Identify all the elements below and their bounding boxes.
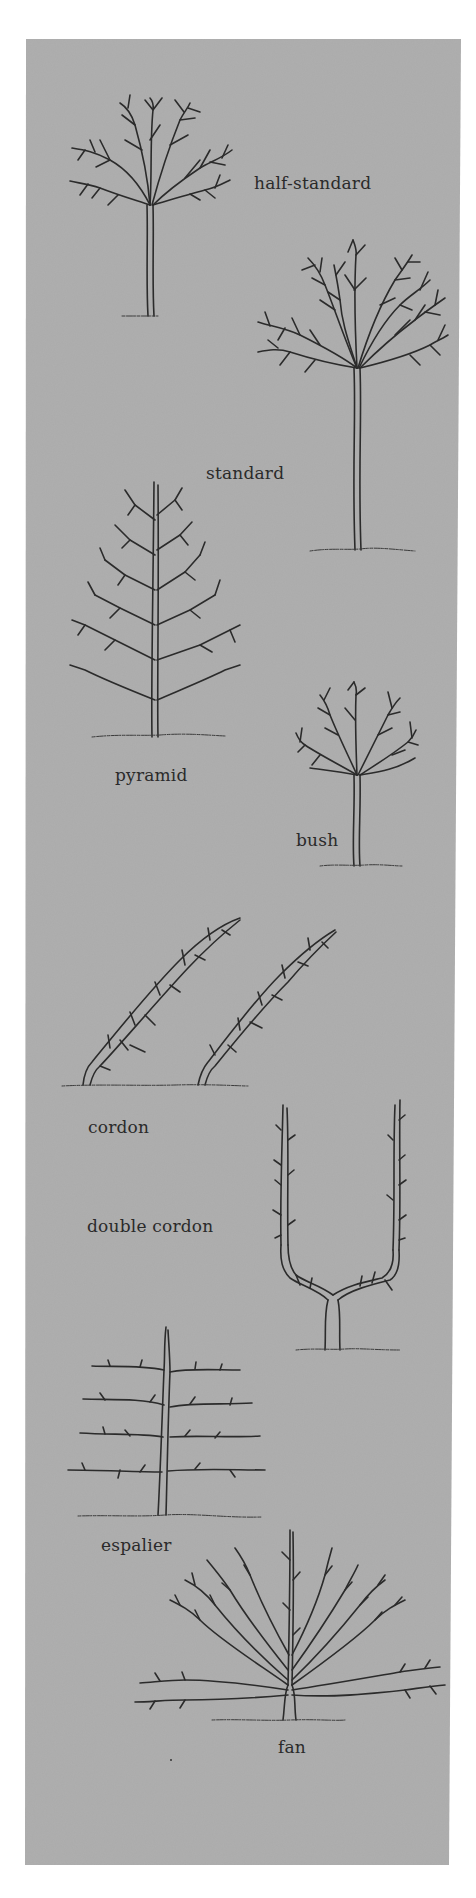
- panel-background: [25, 39, 461, 1865]
- label-espalier: espalier: [101, 1535, 172, 1555]
- label-cordon: cordon: [88, 1117, 149, 1137]
- label-fan: fan: [278, 1737, 306, 1757]
- scan-speck: [170, 1759, 172, 1761]
- label-bush: bush: [296, 830, 338, 850]
- tree-forms-illustration: half-standard standard: [0, 0, 476, 1898]
- label-pyramid: pyramid: [115, 765, 188, 785]
- label-half-standard: half-standard: [254, 173, 371, 193]
- label-double-cordon: double cordon: [87, 1216, 213, 1236]
- label-standard: standard: [206, 463, 284, 483]
